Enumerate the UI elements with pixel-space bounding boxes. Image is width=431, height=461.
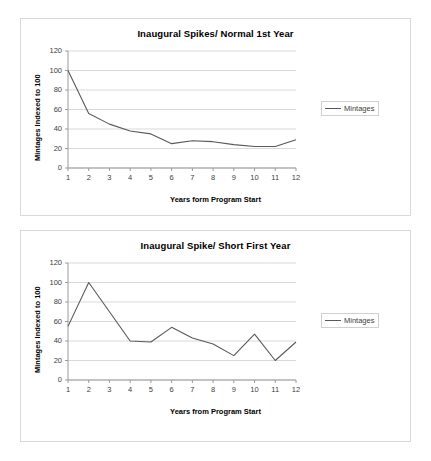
legend-label: Mintages <box>344 316 374 325</box>
plot-area-short-first-year: 020406080100120123456789101112Mintages I… <box>21 231 410 441</box>
x-tick-label: 7 <box>184 173 200 182</box>
x-tick-label: 9 <box>226 385 242 394</box>
y-tick-label: 100 <box>40 278 62 287</box>
x-axis-title: Years from Program Start <box>21 407 410 416</box>
y-tick-label: 20 <box>40 144 62 153</box>
legend-line-swatch <box>325 108 341 109</box>
x-tick-label: 1 <box>60 385 76 394</box>
chart-panel-short-first-year: Inaugural Spike/ Short First Year 020406… <box>20 230 411 442</box>
x-tick-label: 11 <box>267 385 283 394</box>
y-tick-label: 60 <box>40 317 62 326</box>
y-tick-label: 20 <box>40 356 62 365</box>
x-tick-label: 3 <box>101 173 117 182</box>
x-tick-label: 10 <box>247 385 263 394</box>
y-tick-label: 0 <box>40 375 62 384</box>
gridlines <box>68 51 296 168</box>
series-line-mintages <box>68 71 296 147</box>
y-tick-label: 40 <box>40 336 62 345</box>
legend-label: Mintages <box>344 104 374 113</box>
chart-page: Inaugural Spikes/ Normal 1st Year 020406… <box>0 0 431 461</box>
y-tick-label: 80 <box>40 297 62 306</box>
x-tick-label: 4 <box>122 173 138 182</box>
legend-line-swatch <box>325 320 341 321</box>
gridlines <box>68 263 296 380</box>
x-tick-label: 11 <box>267 173 283 182</box>
x-axis-title: Years form Program Start <box>21 195 410 204</box>
x-tick-label: 5 <box>143 173 159 182</box>
y-axis-title: Mintages Indexed to 100 <box>33 286 42 373</box>
x-tick-label: 6 <box>164 385 180 394</box>
x-tick-label: 5 <box>143 385 159 394</box>
x-tick-label: 12 <box>288 173 304 182</box>
x-tick-label: 3 <box>101 385 117 394</box>
x-tick-label: 10 <box>247 173 263 182</box>
y-tick-label: 120 <box>40 46 62 55</box>
y-tick-label: 40 <box>40 124 62 133</box>
chart-legend[interactable]: Mintages <box>321 101 379 116</box>
x-tick-label: 2 <box>81 173 97 182</box>
plot-area-normal-first-year: 020406080100120123456789101112Mintages I… <box>21 19 410 215</box>
x-tick-label: 7 <box>184 385 200 394</box>
x-tick-label: 8 <box>205 173 221 182</box>
y-axis-title: Mintages Indexed to 100 <box>33 74 42 161</box>
chart-panel-normal-first-year: Inaugural Spikes/ Normal 1st Year 020406… <box>20 18 411 216</box>
y-tick-label: 0 <box>40 163 62 172</box>
x-tick-label: 6 <box>164 173 180 182</box>
x-tick-label: 8 <box>205 385 221 394</box>
y-tick-label: 100 <box>40 66 62 75</box>
x-tick-label: 9 <box>226 173 242 182</box>
y-tick-label: 60 <box>40 105 62 114</box>
x-tick-label: 1 <box>60 173 76 182</box>
x-tick-label: 4 <box>122 385 138 394</box>
y-tick-label: 80 <box>40 85 62 94</box>
chart-legend[interactable]: Mintages <box>321 313 379 328</box>
x-tick-label: 12 <box>288 385 304 394</box>
y-tick-label: 120 <box>40 258 62 267</box>
x-tick-label: 2 <box>81 385 97 394</box>
